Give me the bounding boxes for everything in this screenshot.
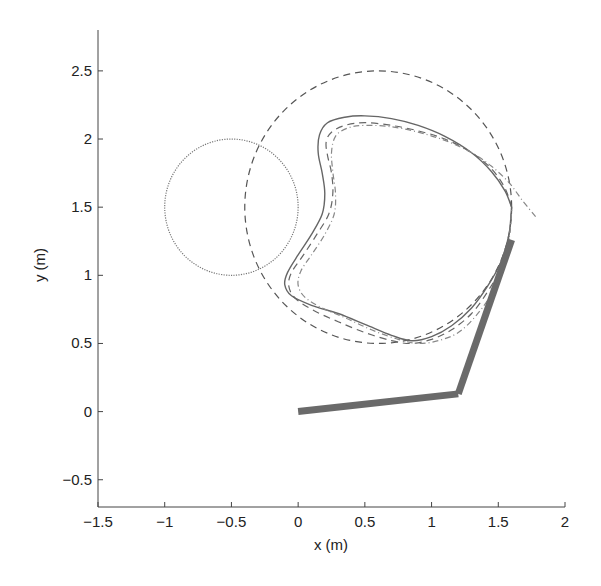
obstacle-circle [165, 139, 298, 275]
x-tick-label: 1.5 [488, 513, 509, 530]
y-tick-label: 2 [84, 130, 92, 147]
arm-link-1 [298, 394, 458, 412]
x-tick-label: 1 [427, 513, 435, 530]
x-tick-label: 2 [561, 513, 569, 530]
x-ticks: −1.5−1−0.500.511.52 [83, 502, 569, 530]
y-tick-label: 0.5 [71, 334, 92, 351]
two-link-arm [298, 240, 511, 412]
y-ticks: −0.500.511.522.5 [62, 62, 103, 488]
chart: −1.5−1−0.500.511.52 −0.500.511.522.5 x (… [0, 0, 601, 586]
x-tick-label: 0 [294, 513, 302, 530]
x-tick-label: −1 [156, 513, 173, 530]
axes: −1.5−1−0.500.511.52 −0.500.511.522.5 x (… [31, 30, 569, 553]
x-tick-label: −1.5 [83, 513, 113, 530]
desired-path [289, 123, 512, 344]
x-axis-label: x (m) [314, 536, 348, 553]
y-tick-label: 2.5 [71, 62, 92, 79]
reference-circle [245, 71, 512, 344]
estimated-path [298, 125, 536, 343]
y-tick-label: 1 [84, 266, 92, 283]
y-tick-label: −0.5 [62, 471, 92, 488]
y-axis-label: y (m) [31, 248, 48, 282]
y-tick-label: 1.5 [71, 198, 92, 215]
x-tick-label: −0.5 [217, 513, 247, 530]
arm-link-2 [458, 240, 511, 394]
x-tick-label: 0.5 [354, 513, 375, 530]
plot-area [165, 71, 536, 412]
y-tick-label: 0 [84, 403, 92, 420]
